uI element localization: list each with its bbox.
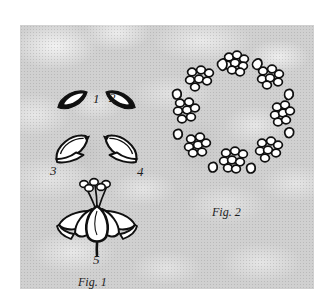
figure-1-caption: Fig. 1 (78, 275, 107, 289)
part-4-petal (96, 129, 143, 169)
part-3-petal (50, 129, 97, 169)
part-number-3: 3 (50, 163, 57, 179)
illustration-plate: 1 2 3 4 5 Fig. 1 Fig. 2 (20, 25, 314, 289)
part-number-5: 5 (93, 252, 100, 268)
figure-1-artwork (20, 25, 314, 289)
part-number-4: 4 (137, 164, 144, 180)
part-1-sepal (55, 86, 90, 113)
part-number-2: 2 (109, 90, 116, 106)
figure-2-caption: Fig. 2 (212, 205, 241, 220)
figure-2-artwork (173, 51, 295, 173)
part-5-whole-flower (57, 179, 137, 255)
part-number-1: 1 (93, 91, 100, 107)
